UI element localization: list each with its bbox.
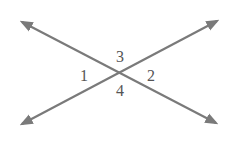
angle-label-1: 1	[80, 67, 88, 84]
angle-label-3: 3	[116, 48, 124, 65]
angle-label-4: 4	[116, 82, 124, 99]
intersecting-lines-diagram: 1 2 3 4	[0, 0, 230, 161]
angle-label-2: 2	[147, 67, 155, 84]
